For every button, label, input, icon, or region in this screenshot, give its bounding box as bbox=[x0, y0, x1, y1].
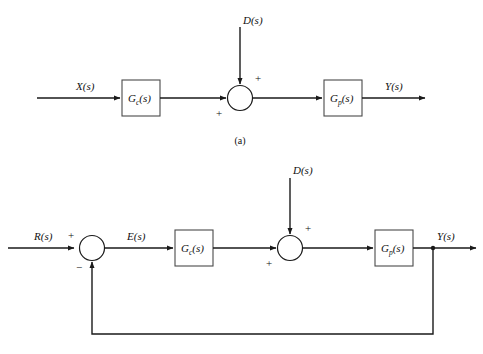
sign-a-sum-left: + bbox=[216, 107, 222, 119]
label-a-controller-arg: (s) bbox=[139, 92, 151, 105]
sign-b-comparator-top: + bbox=[68, 229, 74, 241]
label-b-plant-base: G bbox=[381, 242, 389, 254]
label-b-controller-arg: (s) bbox=[192, 242, 204, 255]
label-b-error: E(s) bbox=[126, 230, 146, 243]
label-b-output: Y(s) bbox=[437, 230, 455, 243]
label-b-plant: Gp(s) bbox=[381, 242, 405, 257]
label-a-plant: Gp(s) bbox=[330, 92, 354, 107]
label-layer: D(s) X(s) Gc(s) Gp(s) Y(s) + + (a) D(s) … bbox=[0, 0, 483, 354]
label-b-plant-arg: (s) bbox=[393, 242, 405, 255]
caption-a: (a) bbox=[234, 135, 245, 147]
label-b-error-arg: (s) bbox=[134, 230, 146, 243]
label-a-disturbance-base: D bbox=[242, 14, 251, 26]
label-b-controller: Gc(s) bbox=[181, 242, 204, 257]
label-b-controller-base: G bbox=[181, 242, 189, 254]
label-a-disturbance-arg: (s) bbox=[251, 14, 263, 27]
label-b-input-arg: (s) bbox=[41, 230, 53, 243]
label-a-input-arg: (s) bbox=[83, 80, 95, 93]
label-a-plant-base: G bbox=[330, 92, 338, 104]
label-a-input: X(s) bbox=[75, 80, 95, 93]
label-a-controller-base: G bbox=[128, 92, 136, 104]
label-a-output-arg: (s) bbox=[391, 80, 403, 93]
sign-b-sum-left: + bbox=[266, 257, 272, 269]
label-a-controller: Gc(s) bbox=[128, 92, 151, 107]
label-b-disturbance-arg: (s) bbox=[301, 164, 313, 177]
sign-b-comparator-bottom: − bbox=[76, 261, 82, 273]
label-b-disturbance: D(s) bbox=[292, 164, 313, 177]
sign-a-sum-top: + bbox=[255, 72, 261, 84]
label-a-output: Y(s) bbox=[385, 80, 403, 93]
label-b-input: R(s) bbox=[33, 230, 53, 243]
sign-b-sum-top: + bbox=[305, 222, 311, 234]
label-a-plant-arg: (s) bbox=[342, 92, 354, 105]
label-a-disturbance: D(s) bbox=[242, 14, 263, 27]
block-diagram-figure: D(s) X(s) Gc(s) Gp(s) Y(s) + + (a) D(s) … bbox=[0, 0, 483, 354]
label-b-disturbance-base: D bbox=[292, 164, 301, 176]
label-b-output-arg: (s) bbox=[443, 230, 455, 243]
